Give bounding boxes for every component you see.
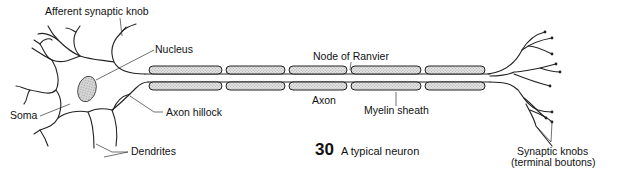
- myelin-segment-1-top: [149, 66, 222, 74]
- label-myelin-sheath: Myelin sheath: [364, 104, 429, 116]
- leader-nucleus: [96, 50, 154, 80]
- leader-synaptic-knobs-b: [551, 122, 552, 142]
- leader-axon-hillock: [130, 96, 163, 112]
- myelin-segment-2-bottom: [226, 82, 285, 90]
- label-axon: Axon: [312, 94, 336, 106]
- myelin-segment-2-top: [226, 66, 285, 74]
- myelin-sheath-segments: [149, 66, 485, 90]
- label-soma: Soma: [10, 109, 38, 121]
- myelin-segment-5-bottom: [425, 82, 485, 90]
- label-node-of-ranvier: Node of Ranvier: [313, 50, 389, 62]
- nucleus-shape: [75, 74, 99, 104]
- myelin-segment-4-top: [351, 66, 421, 74]
- label-dendrites: Dendrites: [131, 145, 176, 157]
- myelin-segment-3-top: [289, 66, 347, 74]
- leader-synaptic-knobs-a: [536, 126, 551, 142]
- myelin-segment-5-top: [425, 66, 485, 74]
- neuron-diagram: Afferent synaptic knob Nucleus Soma Axon…: [0, 0, 619, 177]
- axon-terminal-branches: [488, 31, 561, 146]
- myelin-segment-3-bottom: [289, 82, 347, 90]
- axon-core: [145, 74, 490, 82]
- label-afferent-synaptic-knob: Afferent synaptic knob: [45, 5, 149, 17]
- leader-dendrites-2: [104, 152, 128, 157]
- label-axon-hillock: Axon hillock: [166, 106, 223, 118]
- label-terminal-boutons: (terminal boutons): [511, 156, 596, 168]
- figure-caption: A typical neuron: [341, 145, 419, 157]
- leader-dendrites: [96, 144, 128, 152]
- myelin-segment-4-bottom: [351, 82, 421, 90]
- label-nucleus: Nucleus: [155, 43, 193, 55]
- myelin-segment-1-bottom: [149, 82, 222, 90]
- figure-number: 30: [315, 140, 334, 159]
